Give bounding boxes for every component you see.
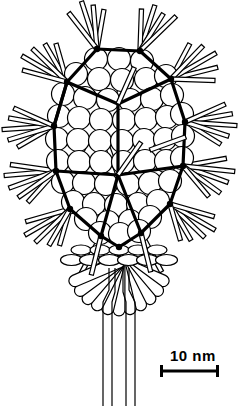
- scale-bar-cap: [216, 365, 219, 377]
- capsomer: [88, 68, 111, 91]
- capsid-vertex-dot: [168, 76, 174, 82]
- baseplate-disc: [156, 255, 178, 266]
- capsid-vertex-dot: [138, 230, 144, 236]
- capsid-vertex-dot: [116, 244, 122, 250]
- capsid-vertex-dot: [180, 163, 186, 169]
- capsid-vertex-dot: [67, 206, 73, 212]
- capsid-vertex-dot: [182, 119, 188, 125]
- capsomer: [135, 108, 158, 131]
- capsomer: [90, 151, 113, 174]
- capsomer: [89, 130, 112, 153]
- capsid-vertex-dot: [94, 46, 100, 52]
- scale-bar-cap: [160, 365, 163, 377]
- phage-illustration: [0, 0, 238, 406]
- capsomer: [68, 151, 91, 174]
- capsomer: [113, 109, 136, 132]
- capsomer: [90, 109, 113, 132]
- capsid-lattice-edge: [183, 122, 185, 166]
- capsid-lattice-edge: [97, 49, 140, 51]
- capsid-vertex-dot: [137, 48, 143, 54]
- scale-bar-line: [160, 370, 219, 373]
- capsomer: [68, 107, 91, 130]
- capsid-lattice-edge: [54, 126, 56, 171]
- capsid-vertex-dot: [98, 233, 104, 239]
- phage-figure: 10 nm: [0, 0, 238, 406]
- capsid-vertex-dot: [51, 123, 57, 129]
- baseplate-disc: [71, 245, 91, 255]
- capsid-vertex-dot: [53, 168, 59, 174]
- spike-tube: [171, 77, 215, 83]
- capsid-vertex-dot: [64, 79, 70, 85]
- capsomer: [111, 130, 134, 153]
- capsid-vertex-dot: [167, 201, 173, 207]
- baseplate-disc: [147, 245, 167, 255]
- capsomer: [46, 128, 69, 151]
- scale-bar-label: 10 nm: [170, 347, 216, 364]
- capsomer: [67, 129, 90, 152]
